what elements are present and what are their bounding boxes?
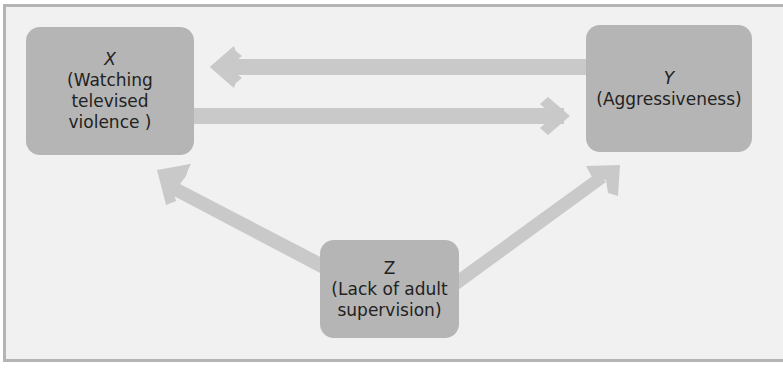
node-y-aggressiveness: Y (Aggressiveness) [586,25,752,152]
node-x-label-line3: violence ) [69,112,152,133]
node-z-label-line1: (Lack of adult [331,279,447,300]
node-z-symbol: Z [384,258,396,279]
node-x-label-line2: televised [71,91,148,112]
arrow-x-to-y [192,97,570,135]
node-x-symbol: X [104,49,116,70]
node-y-label-line1: (Aggressiveness) [596,89,741,110]
node-z-label-line2: supervision) [337,300,441,321]
node-z-lack-of-adult-supervision: Z (Lack of adult supervision) [320,240,459,338]
arrow-y-to-x [210,46,588,88]
arrow-z-to-x [157,164,330,274]
arrow-z-to-y [452,165,620,290]
node-y-symbol: Y [664,68,674,89]
node-x-watching-televised-violence: X (Watching televised violence ) [26,27,194,155]
node-x-label-line1: (Watching [67,70,153,91]
